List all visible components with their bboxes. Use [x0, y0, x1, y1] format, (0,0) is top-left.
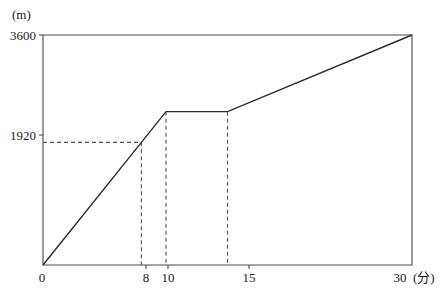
x-tick-label-15: 15 — [237, 271, 261, 284]
x-tick-label-30: 30 — [388, 271, 412, 284]
graph-canvas — [0, 0, 443, 291]
y-axis-unit-label: (m) — [12, 8, 31, 21]
graph-figure: (m) 3600 1920 0 8 10 15 30 (分) — [0, 0, 443, 291]
x-tick-label-0: 0 — [30, 271, 54, 284]
y-tick-label-1920: 1920 — [0, 129, 36, 142]
x-tick-label-10: 10 — [156, 271, 180, 284]
y-tick-label-3600: 3600 — [0, 29, 36, 42]
x-tick-label-8: 8 — [134, 271, 158, 284]
x-tick-marks — [146, 265, 249, 269]
y-tick-marks — [39, 35, 43, 135]
guide-lines — [43, 112, 228, 265]
x-axis-unit-label: (分) — [413, 271, 435, 284]
